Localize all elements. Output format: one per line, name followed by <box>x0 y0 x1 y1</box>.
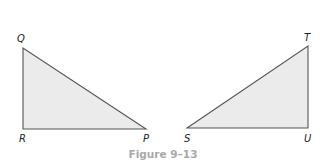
figure-caption: Figure 9–13 <box>129 148 198 160</box>
figure-canvas: Q R P S T U Figure 9–13 <box>0 0 325 165</box>
triangle-stu <box>187 46 308 128</box>
vertex-label-p: P <box>143 133 150 144</box>
vertex-label-t: T <box>304 32 311 43</box>
triangle-qrp <box>23 48 146 129</box>
vertex-label-u: U <box>304 133 312 144</box>
vertex-label-s: S <box>184 133 191 144</box>
vertex-label-r: R <box>19 133 26 144</box>
vertex-label-q: Q <box>17 33 25 44</box>
